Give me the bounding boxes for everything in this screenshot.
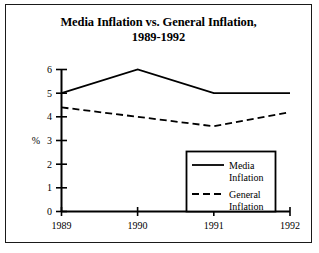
x-tick-label-1990: 1990: [128, 220, 148, 231]
y-tick-label-1: 1: [47, 182, 52, 193]
y-tick-label-6: 6: [47, 64, 52, 75]
legend-label-general-line-2: Inflation: [229, 201, 263, 212]
series-line-media-inflation: [62, 70, 291, 94]
y-tick-label-4: 4: [47, 111, 52, 122]
x-axis-tick-labels: 1989 1990 1991 1992: [52, 220, 301, 231]
line-chart-plot: 0 1 2 3 4 5 6 % 1989 1990 1991 1992: [6, 5, 313, 244]
y-tick-label-2: 2: [47, 159, 52, 170]
y-axis-title: %: [32, 135, 40, 146]
series-line-general-inflation: [62, 107, 291, 126]
legend-label-general-line-1: General: [229, 189, 261, 200]
y-tick-label-0: 0: [47, 206, 52, 217]
chart-legend: Media Inflation General Inflation: [187, 152, 276, 212]
legend-label-media-line-1: Media: [229, 160, 255, 171]
x-tick-label-1992: 1992: [280, 220, 300, 231]
y-axis-tick-labels: 0 1 2 3 4 5 6: [47, 64, 52, 217]
x-tick-label-1989: 1989: [52, 220, 72, 231]
x-tick-label-1991: 1991: [204, 220, 224, 231]
legend-label-media-line-2: Inflation: [229, 172, 263, 183]
y-tick-label-5: 5: [47, 88, 52, 99]
y-tick-label-3: 3: [47, 135, 52, 146]
chart-frame: Media Inflation vs. General Inflation, 1…: [5, 4, 312, 243]
